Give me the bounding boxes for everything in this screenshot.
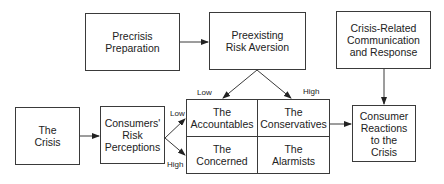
segment-matrix: The Accountables The Conservatives The C… — [186, 99, 330, 174]
node-precrisis-preparation: Precrisis Preparation — [85, 13, 180, 71]
node-text: Communication — [347, 34, 420, 46]
cell-text: The — [272, 143, 315, 155]
node-preexisting-risk-aversion: Preexisting Risk Aversion — [209, 12, 306, 70]
node-text: Consumers' — [105, 117, 161, 129]
matrix-cell-accountables: The Accountables — [187, 100, 258, 137]
arrow-aversion-low — [223, 70, 257, 98]
node-text: Reactions — [360, 122, 408, 134]
label-aversion-high: High — [303, 87, 319, 96]
arrow-perception-low — [165, 119, 185, 138]
node-text: Perceptions — [105, 141, 161, 153]
node-text: and Response — [347, 46, 420, 58]
node-text: Crisis — [360, 146, 408, 158]
matrix-cell-concerned: The Concerned — [187, 137, 258, 173]
node-crisis-related-communication: Crisis-Related Communication and Respons… — [336, 11, 431, 69]
node-the-crisis: The Crisis — [15, 107, 80, 165]
node-text: Preexisting — [226, 29, 289, 41]
node-text: Risk Aversion — [226, 41, 289, 53]
node-text: Preparation — [105, 42, 159, 54]
cell-text: Conservatives — [260, 118, 327, 130]
cell-text: The — [260, 106, 327, 118]
cell-text: Accountables — [190, 118, 253, 130]
matrix-cell-conservatives: The Conservatives — [258, 100, 329, 137]
arrow-aversion-high — [257, 70, 291, 98]
node-text: The — [34, 124, 60, 136]
cell-text: The — [196, 143, 247, 155]
node-text: Risk — [105, 129, 161, 141]
cell-text: Concerned — [196, 155, 247, 167]
node-text: Precrisis — [105, 30, 159, 42]
node-text: Crisis — [34, 136, 60, 148]
cell-text: The — [190, 106, 253, 118]
label-aversion-low: Low — [197, 88, 212, 97]
matrix-cell-alarmists: The Alarmists — [258, 137, 329, 173]
label-perception-high: High — [167, 160, 183, 169]
node-consumers-risk-perceptions: Consumers' Risk Perceptions — [100, 106, 165, 164]
node-consumer-reactions: Consumer Reactions to the Crisis — [352, 105, 416, 162]
arrow-perception-high — [165, 138, 185, 155]
cell-text: Alarmists — [272, 155, 315, 167]
node-text: Consumer — [360, 110, 408, 122]
node-text: to the — [360, 134, 408, 146]
node-text: Crisis-Related — [347, 22, 420, 34]
label-perception-low: Low — [170, 109, 185, 118]
